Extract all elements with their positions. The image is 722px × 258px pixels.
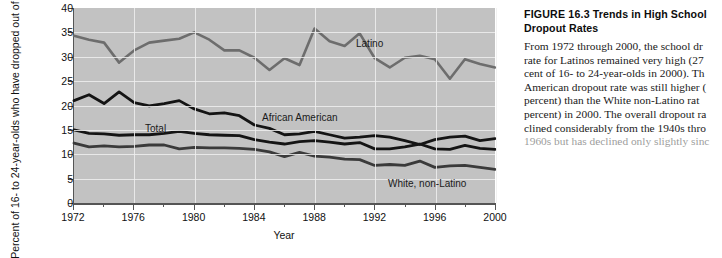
y-tick-label: 35 xyxy=(61,26,73,38)
x-tick-mark xyxy=(435,203,436,210)
chart-figure: Percent of 16- to 24-year-olds who have … xyxy=(0,0,516,253)
y-tick-label: 10 xyxy=(61,148,73,160)
y-tick-label: 30 xyxy=(61,51,73,63)
x-tick-mark xyxy=(374,203,375,210)
vertical-gridline xyxy=(134,8,135,203)
x-tick-mark-minor xyxy=(103,203,104,207)
series-label-african-american: African American xyxy=(262,112,338,123)
x-tick-label: 1988 xyxy=(302,211,325,223)
vertical-gridline xyxy=(496,8,497,203)
x-tick-label: 1976 xyxy=(122,211,145,223)
x-tick-mark xyxy=(495,203,496,210)
series-label-white-non-latino: White, non-Latino xyxy=(388,178,466,189)
x-tick-mark xyxy=(314,203,315,210)
x-tick-label: 1980 xyxy=(182,211,205,223)
figure-title: Trends in High School xyxy=(593,8,707,20)
series-line-latino xyxy=(74,28,495,78)
y-axis-label-text: Percent of 16- to 24-year-olds who have … xyxy=(9,0,22,258)
horizontal-gridline xyxy=(74,106,495,107)
caption-line: 1960s but has declined only slightly sin… xyxy=(524,135,722,149)
y-tick-label: 20 xyxy=(61,100,73,112)
plot-wrapper: Year 05101520253035401972197619801984198… xyxy=(30,8,510,253)
caption-heading: FIGURE 16.3 Trends in High School Dropou… xyxy=(524,8,722,35)
x-tick-label: 1984 xyxy=(242,211,265,223)
x-tick-label: 1992 xyxy=(363,211,386,223)
figure-caption: FIGURE 16.3 Trends in High School Dropou… xyxy=(524,8,722,248)
y-tick-label: 5 xyxy=(67,173,73,185)
x-tick-mark-minor xyxy=(344,203,345,207)
horizontal-gridline xyxy=(74,57,495,58)
x-tick-label: 2000 xyxy=(483,211,506,223)
vertical-gridline xyxy=(195,8,196,203)
horizontal-gridline xyxy=(74,81,495,82)
figure-title-line2: Dropout Rates xyxy=(524,22,598,34)
series-label-total: Total xyxy=(145,123,166,134)
caption-line: percent) in 2000. The overall dropout ra xyxy=(524,108,722,122)
vertical-gridline xyxy=(255,8,256,203)
vertical-gridline xyxy=(315,8,316,203)
x-tick-mark xyxy=(73,203,74,210)
series-label-latino: Latino xyxy=(356,38,383,49)
x-axis-label: Year xyxy=(73,229,495,241)
x-tick-mark-minor xyxy=(465,203,466,207)
x-tick-mark-minor xyxy=(284,203,285,207)
x-tick-label: 1996 xyxy=(423,211,446,223)
x-tick-mark-minor xyxy=(163,203,164,207)
x-tick-mark xyxy=(254,203,255,210)
caption-line: clined considerably from the 1940s thro xyxy=(524,122,722,136)
x-tick-label: 1972 xyxy=(61,211,84,223)
figure-number: FIGURE 16.3 xyxy=(524,8,590,20)
caption-line: cent of 16- to 24-year-olds in 2000). Th xyxy=(524,67,722,81)
y-tick-label: 25 xyxy=(61,75,73,87)
vertical-gridline xyxy=(436,8,437,203)
x-tick-mark-minor xyxy=(405,203,406,207)
caption-line: rate for Latinos remained very high (27 xyxy=(524,54,722,68)
horizontal-gridline xyxy=(74,130,495,131)
horizontal-gridline xyxy=(74,32,495,33)
caption-line: percent) than the White non-Latino rat xyxy=(524,94,722,108)
y-axis-label: Percent of 16- to 24-year-olds who have … xyxy=(2,18,28,208)
caption-line: From 1972 through 2000, the school dr xyxy=(524,40,722,54)
plot-area xyxy=(73,8,495,203)
y-tick-label: 40 xyxy=(61,2,73,14)
caption-line: American dropout rate was still higher ( xyxy=(524,81,722,95)
x-tick-mark xyxy=(133,203,134,210)
horizontal-gridline xyxy=(74,154,495,155)
x-tick-mark-minor xyxy=(224,203,225,207)
caption-body: From 1972 through 2000, the school drrat… xyxy=(524,40,722,149)
y-tick-label: 15 xyxy=(61,124,73,136)
x-tick-mark xyxy=(194,203,195,210)
